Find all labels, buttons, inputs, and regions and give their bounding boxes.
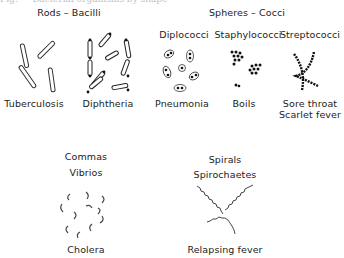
vibrios-icon [58, 192, 114, 244]
diplococci-icon [160, 50, 210, 95]
spheres-heading: Spheres – Cocci [209, 7, 285, 18]
rods-heading: Rods – Bacilli [37, 7, 100, 18]
vibrios-heading: Vibrios [70, 167, 103, 178]
pneumonia-label: Pneumonia [155, 98, 209, 109]
commas-heading: Commas [65, 151, 107, 162]
relapsing-fever-label: Relapsing fever [187, 244, 262, 255]
staphylococci-icon [230, 50, 270, 95]
sore-throat-label: Sore throat [283, 98, 337, 109]
scarlet-fever-label: Scarlet fever [279, 109, 341, 120]
diphtheria-label: Diphtheria [83, 98, 134, 109]
staphylococci-label: Staphylococci [214, 29, 281, 40]
diphtheria-bacilli-icon [80, 30, 160, 100]
cholera-label: Cholera [67, 244, 104, 255]
diplococci-label: Diplococci [159, 29, 209, 40]
tuberculosis-bacilli-icon [10, 38, 70, 98]
spirochaetes-heading: Spirochaetes [194, 169, 257, 180]
spirals-heading: Spirals [209, 154, 242, 165]
figure-caption-cropped: Fig. — Bacterial organisms by shape [0, 0, 167, 4]
tuberculosis-label: Tuberculosis [4, 98, 63, 109]
streptococci-label: Streptococci [280, 29, 340, 40]
spirochaetes-icon [195, 184, 275, 244]
boils-label: Boils [232, 98, 255, 109]
streptococci-icon [292, 50, 332, 95]
